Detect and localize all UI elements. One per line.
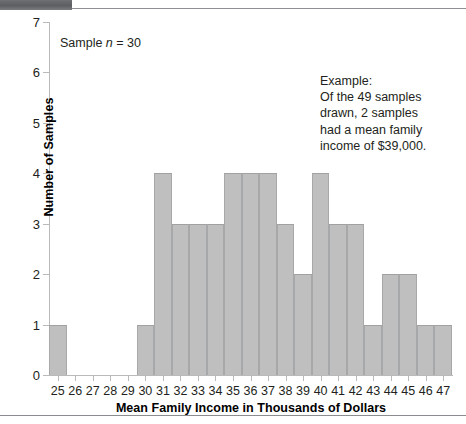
x-axis-tick-label: 40	[312, 385, 330, 398]
x-axis-tick	[356, 376, 357, 381]
x-axis-title: Mean Family Income in Thousands of Dolla…	[49, 401, 453, 415]
x-axis-tick	[215, 376, 216, 381]
x-axis-tick	[163, 376, 164, 381]
sample-note-prefix: Sample	[60, 36, 106, 50]
x-axis-tick	[321, 376, 322, 381]
histogram-chart: Number of Samples Mean Family Income in …	[0, 0, 466, 424]
sample-note-symbol: n	[106, 36, 113, 50]
example-callout: Example:Of the 49 samplesdrawn, 2 sample…	[320, 73, 426, 154]
y-axis-tick-label: 2	[18, 268, 40, 281]
x-axis-tick-label: 43	[364, 385, 382, 398]
x-axis-tick-label: 39	[294, 385, 312, 398]
x-axis-tick-label: 45	[399, 385, 417, 398]
example-callout-line: drawn, 2 samples	[320, 105, 426, 121]
y-axis-tick-label: 3	[18, 218, 40, 231]
x-axis-tick-label: 31	[154, 385, 172, 398]
x-axis-tick-label: 26	[66, 385, 84, 398]
histogram-bar	[207, 224, 225, 375]
y-axis-tick-label: 5	[18, 117, 40, 130]
x-axis-tick	[128, 376, 129, 381]
x-axis-tick	[391, 376, 392, 381]
x-axis-tick	[58, 376, 59, 381]
y-axis-tick	[43, 375, 49, 376]
histogram-bar	[259, 173, 277, 375]
histogram-bar	[417, 325, 435, 375]
x-axis-tick	[233, 376, 234, 381]
histogram-bar	[329, 224, 347, 375]
x-axis-tick	[93, 376, 94, 381]
y-axis-tick-label: 6	[18, 66, 40, 79]
y-axis-tick-label: 7	[18, 16, 40, 29]
x-axis-tick-label: 46	[417, 385, 435, 398]
x-axis-tick	[303, 376, 304, 381]
example-callout-line: Example:	[320, 73, 426, 89]
sample-note-suffix: = 30	[113, 36, 141, 50]
x-axis-tick-label: 36	[242, 385, 260, 398]
bottom-divider-rule	[0, 415, 466, 416]
histogram-bar	[224, 173, 242, 375]
x-axis-tick-label: 25	[49, 385, 67, 398]
histogram-bar	[399, 274, 417, 375]
histogram-bar	[277, 224, 295, 375]
histogram-bar	[154, 173, 172, 375]
x-axis-tick	[268, 376, 269, 381]
x-axis-tick-label: 30	[136, 385, 154, 398]
x-axis-tick-label: 41	[329, 385, 347, 398]
x-axis-tick	[286, 376, 287, 381]
x-axis-tick-label: 32	[171, 385, 189, 398]
example-callout-line: income of $39,000.	[320, 138, 426, 154]
histogram-bar	[364, 325, 382, 375]
histogram-bar	[312, 173, 330, 375]
histogram-bar	[49, 325, 67, 375]
histogram-bar	[137, 325, 155, 375]
histogram-bar	[294, 274, 312, 375]
x-axis-tick-label: 44	[382, 385, 400, 398]
x-axis-tick-label: 33	[189, 385, 207, 398]
x-axis-tick	[75, 376, 76, 381]
sample-size-note: Sample n = 30	[60, 36, 141, 50]
x-axis-tick-label: 37	[259, 385, 277, 398]
x-axis-tick-label: 35	[224, 385, 242, 398]
x-axis-tick	[408, 376, 409, 381]
x-axis-tick-label: 27	[84, 385, 102, 398]
x-axis-tick	[443, 376, 444, 381]
histogram-bar	[189, 224, 207, 375]
x-axis-tick	[180, 376, 181, 381]
x-axis-tick-label: 29	[119, 385, 137, 398]
y-axis-tick-label: 1	[18, 319, 40, 332]
histogram-bar	[242, 173, 260, 375]
x-axis-tick-label: 34	[206, 385, 224, 398]
x-axis-tick-label: 42	[347, 385, 365, 398]
x-axis-tick-label: 38	[277, 385, 295, 398]
x-axis-tick	[198, 376, 199, 381]
y-axis-tick-label: 0	[18, 369, 40, 382]
x-axis-tick	[338, 376, 339, 381]
example-callout-line: Of the 49 samples	[320, 89, 426, 105]
histogram-bar	[172, 224, 190, 375]
x-axis-tick	[110, 376, 111, 381]
example-callout-line: had a mean family	[320, 122, 426, 138]
x-axis-tick	[145, 376, 146, 381]
x-axis-tick	[251, 376, 252, 381]
x-axis-tick-label: 47	[434, 385, 452, 398]
y-axis-tick-label: 4	[18, 167, 40, 180]
histogram-bar	[347, 224, 365, 375]
x-axis-tick	[426, 376, 427, 381]
histogram-bar	[382, 274, 400, 375]
histogram-bar	[434, 325, 452, 375]
x-axis-tick-label: 28	[101, 385, 119, 398]
x-axis-tick	[373, 376, 374, 381]
